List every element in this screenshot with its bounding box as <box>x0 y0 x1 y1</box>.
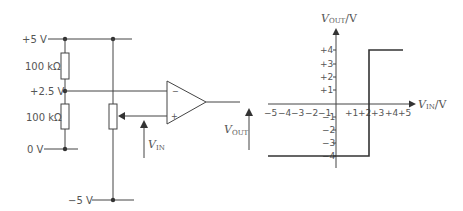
svg-text:+5: +5 <box>398 108 411 118</box>
svg-text:+3: +3 <box>320 59 333 69</box>
svg-text:+4: +4 <box>385 108 399 118</box>
y-tick-labels: +4 +3 +2 +1 −1 −2 −3 −4 <box>320 45 336 161</box>
svg-text:−1: −1 <box>318 108 331 118</box>
rail-label-zero: 0 V <box>27 144 44 155</box>
wiper-arrow-icon <box>118 112 125 120</box>
svg-text:−2: −2 <box>305 108 318 118</box>
junction-dot <box>63 147 67 151</box>
comparator-diagram: +5 V 100 kΩ 100 kΩ +2.5 V 0 V −5 V − <box>0 0 463 211</box>
opamp-inverting-symbol: − <box>172 87 179 96</box>
opamp-noninverting-symbol: + <box>171 112 178 121</box>
svg-text:+2: +2 <box>320 72 333 82</box>
svg-text:+1: +1 <box>345 108 358 118</box>
rail-label-plus5: +5 V <box>22 34 47 45</box>
svg-text:+1: +1 <box>320 85 333 95</box>
resistor-top-label: 100 kΩ <box>25 61 61 72</box>
arrow-up-icon <box>245 108 253 116</box>
y-axis-arrow-icon <box>333 28 340 35</box>
rail-label-minus5: −5 V <box>68 195 93 206</box>
svg-text:−3: −3 <box>291 108 304 118</box>
x-axis-arrow-icon <box>409 101 416 108</box>
resistor-bottom <box>61 104 69 129</box>
x-axis-title: VIN/V <box>418 98 448 111</box>
rail-label-mid: +2.5 V <box>30 86 64 97</box>
arrow-up-icon <box>140 120 148 128</box>
svg-text:+4: +4 <box>320 45 334 55</box>
potentiometer <box>109 104 117 129</box>
transfer-chart: VOUT/V VIN/V +4 +3 +2 +1 −1 −2 −3 −4 −5 … <box>264 12 448 168</box>
y-axis-title: VOUT/V <box>321 12 358 25</box>
svg-text:−4: −4 <box>278 108 292 118</box>
svg-text:+3: +3 <box>371 108 384 118</box>
circuit: +5 V 100 kΩ 100 kΩ +2.5 V 0 V −5 V − <box>22 34 253 206</box>
junction-dot <box>111 198 115 202</box>
vin-label: VIN <box>148 138 165 152</box>
resistor-bottom-label: 100 kΩ <box>26 112 62 123</box>
x-tick-labels: −5 −4 −3 −2 −1 +1 +2 +3 +4 +5 <box>264 108 411 118</box>
svg-text:−5: −5 <box>264 108 277 118</box>
vout-label: VOUT <box>224 123 249 137</box>
resistor-top <box>61 53 69 79</box>
